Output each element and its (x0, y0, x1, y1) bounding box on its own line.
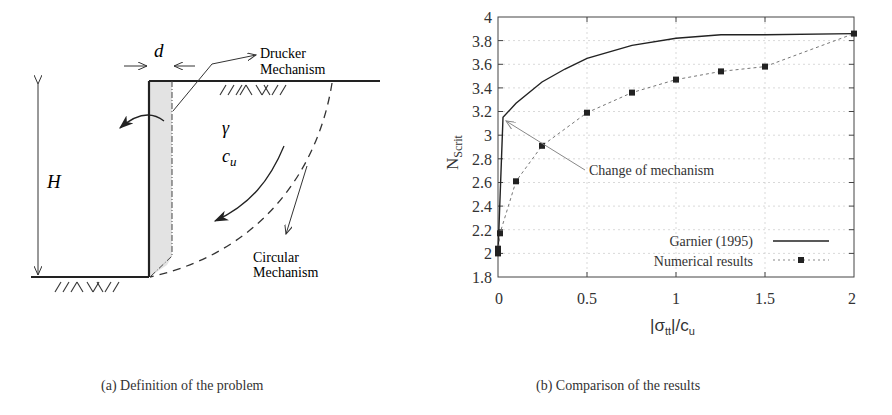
svg-text:2.4: 2.4 (472, 198, 492, 215)
drucker-label-line1: Drucker (260, 46, 306, 61)
x-axis-label: |σtt|/cu (650, 316, 695, 337)
soil-hatch-bottom (55, 282, 119, 292)
svg-text:0: 0 (495, 290, 503, 307)
svg-text:4: 4 (484, 9, 492, 26)
legend-numerical-swatch-marker (798, 257, 804, 263)
svg-text:2: 2 (848, 290, 856, 307)
svg-text:3.6: 3.6 (472, 56, 492, 73)
gamma-label: γ (222, 118, 230, 138)
figure-a-diagram (31, 55, 380, 292)
circular-label-line1: Circular (253, 250, 299, 265)
legend-garnier-label: Garnier (1995) (669, 234, 753, 250)
drucker-leader-arrow (173, 55, 256, 111)
svg-text:2.8: 2.8 (472, 151, 492, 168)
y-tick-labels: 4 3.8 3.6 3.4 3.2 3 2.8 2.6 2.4 2.2 2 1.… (472, 9, 492, 286)
svg-text:2.2: 2.2 (472, 222, 492, 239)
svg-text:3.2: 3.2 (472, 103, 492, 120)
annotation-arrow (506, 121, 585, 170)
soil-hatch-top (220, 85, 286, 95)
legend-numerical-label: Numerical results (654, 254, 753, 269)
cu-label: cu (222, 146, 237, 169)
svg-text:2: 2 (484, 245, 492, 262)
svg-text:0.5: 0.5 (577, 290, 597, 307)
x-tick-labels: 0 0.5 1 1.5 2 (495, 290, 856, 307)
svg-text:1: 1 (672, 290, 680, 307)
d-label: d (154, 40, 164, 61)
drucker-label-line2: Mechanism (260, 62, 325, 77)
svg-text:3.4: 3.4 (472, 80, 492, 97)
svg-text:3.8: 3.8 (472, 33, 492, 50)
y-axis-label: NScrit (443, 134, 465, 170)
drucker-zone (149, 81, 172, 277)
circular-label-line2: Mechanism (253, 265, 318, 280)
svg-text:3: 3 (484, 127, 492, 144)
svg-text:1.5: 1.5 (755, 290, 775, 307)
annotation-label: Change of mechanism (589, 163, 714, 178)
circular-mechanism-boundary (150, 83, 332, 277)
figure-a-caption: (a) Definition of the problem (101, 378, 264, 394)
figure-b-caption: (b) Comparison of the results (536, 378, 700, 394)
circular-leader-arrow (286, 166, 307, 234)
svg-text:2.6: 2.6 (472, 174, 492, 191)
svg-text:1.8: 1.8 (472, 269, 492, 286)
h-label: H (46, 171, 62, 192)
figure-canvas: d H γ cu Drucker Mechanism Circular Mech… (0, 0, 892, 415)
